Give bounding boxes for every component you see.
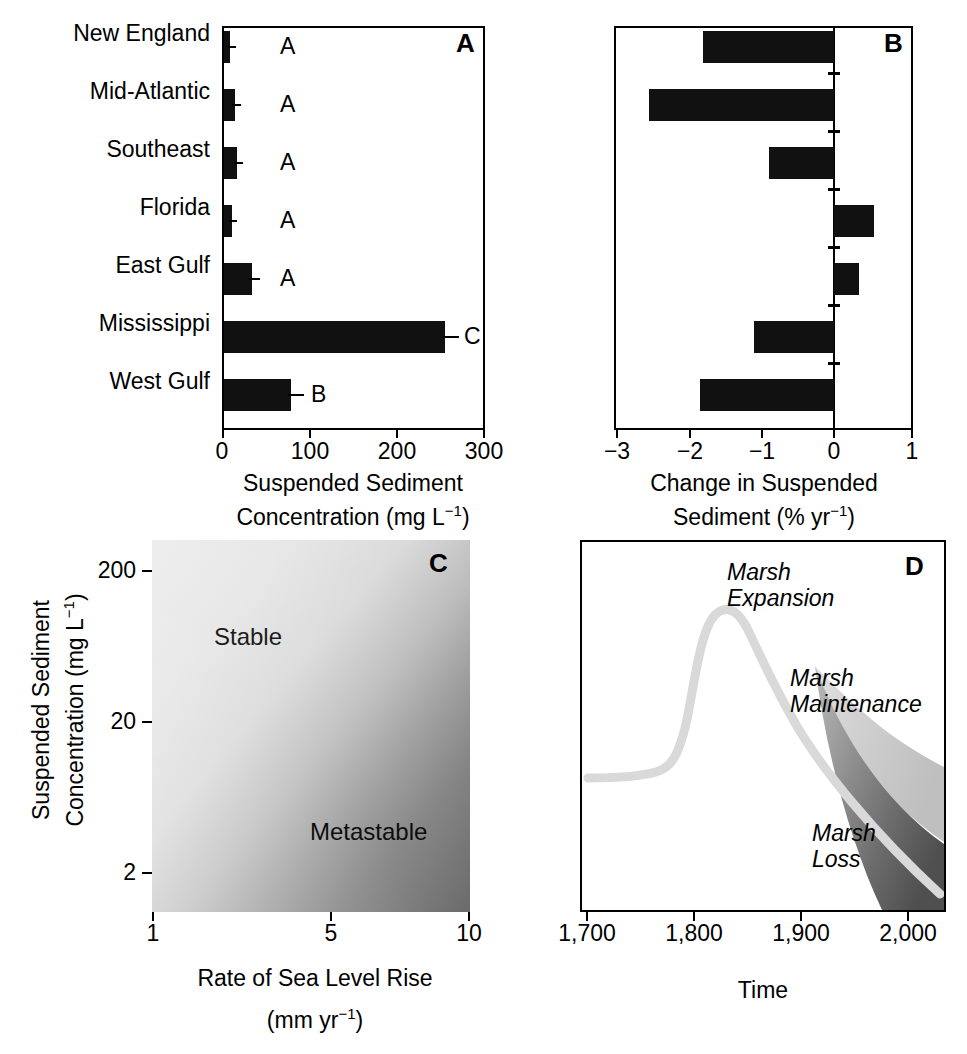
panel-a-xaxis-unit-sup: −1 [445,502,462,519]
xticklabel-b-neg3: −3 [587,440,647,463]
panel-a-xaxis-title-line2: Concentration (mg L−1) [203,497,503,531]
category-label-new-england: New England [10,22,210,45]
xticklabel-b-neg2: −2 [660,440,720,463]
category-label-florida: Florida [10,196,210,219]
panel-c-xaxis-title-line1: Rate of Sea Level Rise [140,965,490,992]
category-label-west-gulf: West Gulf [10,370,210,393]
panel-c-annotation-metastable: Metastable [310,820,427,844]
bar-east-gulf [224,263,252,295]
bar-change-west-gulf [700,379,834,411]
errorbar-new-england [228,46,236,48]
panel-b-ytick-6 [828,362,840,365]
panel-b-xaxis-title-line2: Sediment (% yr−1) [614,497,914,531]
panel-b-ytick-4 [828,246,840,249]
category-label-mississippi: Mississippi [10,312,210,335]
panel-c-heatmap: Stable Metastable C [152,540,470,912]
bar-change-southeast [769,147,834,179]
panel-label-d: D [905,553,924,579]
panel-c-yaxis-unit-post: ) [62,593,88,601]
xticklabel-a-0: 0 [192,440,252,463]
panel-b-xaxis-unit-post: ) [847,504,855,530]
panel-b-xaxis-unit-pre: Sediment (% yr [673,504,830,530]
panel-c-xaxis-unit-pre: (mm yr [267,1007,339,1033]
xticklabel-c-5: 5 [301,922,361,945]
panel-d-annotation-expansion-line1: Marsh [727,559,791,585]
errorbar-east-gulf [249,278,260,280]
errorbar-southeast [234,162,243,164]
xticklabel-c-1: 1 [123,922,183,945]
panel-c-annotation-stable: Stable [214,625,282,649]
panel-c-yaxis-unit-pre: Concentration (mg L [62,618,88,826]
xticklabel-a-300: 300 [454,440,514,463]
errorbar-florida [229,220,237,222]
panel-a-xaxis-title-line1: Suspended Sediment [203,470,503,497]
significance-label-florida: A [280,209,295,232]
xticklabel-d-1900: 1,900 [756,922,846,945]
xtick-a-0 [222,430,224,438]
xtick-b-1 [911,430,913,438]
figure-container: New England Mid-Atlantic Southeast Flori… [0,0,967,1054]
bar-change-new-england [703,31,834,63]
bar-change-east-gulf [834,263,859,295]
panel-c-xaxis-unit-post: ) [355,1007,363,1033]
xtick-b-neg2 [689,430,691,438]
panel-c-xaxis-unit-sup: −1 [338,1005,355,1022]
panel-d-annotation-expansion-line2: Expansion [727,585,834,611]
panel-d-annotation-loss-line1: Marsh [812,820,876,846]
panel-b-xaxis-unit-sup: −1 [830,502,847,519]
panel-b-ytick-5 [828,304,840,307]
xticklabel-d-2000: 2,000 [863,922,953,945]
category-label-mid-atlantic: Mid-Atlantic [10,80,210,103]
errorbar-west-gulf [288,394,304,396]
xtick-b-0 [833,430,835,438]
panel-c-yaxis-unit-sup: −1 [60,601,77,618]
bar-change-florida [834,205,874,237]
xtick-a-200 [396,430,398,438]
panel-b-ytick-3 [828,188,840,191]
significance-label-west-gulf: B [311,383,326,406]
significance-label-southeast: A [280,151,295,174]
ytick-c-200 [142,570,152,572]
xtick-b-neg1 [761,430,763,438]
xtick-b-neg3 [616,430,618,438]
panel-b-ytick-2 [828,130,840,133]
panel-label-b: B [884,30,903,56]
panel-c-heatmap-svg [152,540,470,912]
panel-d-annotation-maintenance-line1: Marsh [790,665,854,691]
errorbar-mississippi [443,336,459,338]
panel-c-xaxis-title-line2: (mm yr−1) [140,1000,490,1034]
xtick-a-300 [483,430,485,438]
xticklabel-b-1: 1 [882,440,942,463]
panel-a-plot-frame [222,26,485,430]
category-label-southeast: Southeast [10,138,210,161]
xticklabel-d-1800: 1,800 [649,922,739,945]
panel-b-ytick-1 [828,72,840,75]
xticklabel-a-200: 200 [367,440,427,463]
errorbar-mid-atlantic [232,104,241,106]
xtick-a-100 [309,430,311,438]
panel-a-xaxis-unit-pre: Concentration (mg L [236,504,444,530]
panel-c-yaxis-title-line2: Concentration (mg L−1) [55,520,89,900]
category-label-east-gulf: East Gulf [10,254,210,277]
panel-d-xaxis-title: Time [613,977,913,1004]
ytick-c-2 [142,872,152,874]
significance-label-mid-atlantic: A [280,93,295,116]
ytick-c-20 [142,721,152,723]
bar-change-mississippi [754,321,834,353]
panel-a-xaxis-unit-post: ) [462,504,470,530]
xticklabel-b-0: 0 [804,440,864,463]
panel-label-a: A [456,30,475,56]
panel-d-annotation-maintenance-line2: Maintenance [790,691,922,717]
xticklabel-a-100: 100 [280,440,340,463]
bar-mississippi [224,321,445,353]
xticklabel-c-10: 10 [439,922,499,945]
xticklabel-d-1700: 1,700 [542,922,632,945]
panel-d-annotation-loss-line2: Loss [812,846,861,872]
panel-label-c: C [429,550,448,576]
bar-west-gulf [224,379,291,411]
significance-label-east-gulf: A [280,267,295,290]
xticklabel-b-neg1: −1 [732,440,792,463]
panel-b-xaxis-title-line1: Change in Suspended [614,470,914,497]
panel-c-yaxis-title-line1: Suspended Sediment [28,520,55,900]
significance-label-mississippi: C [464,325,481,348]
